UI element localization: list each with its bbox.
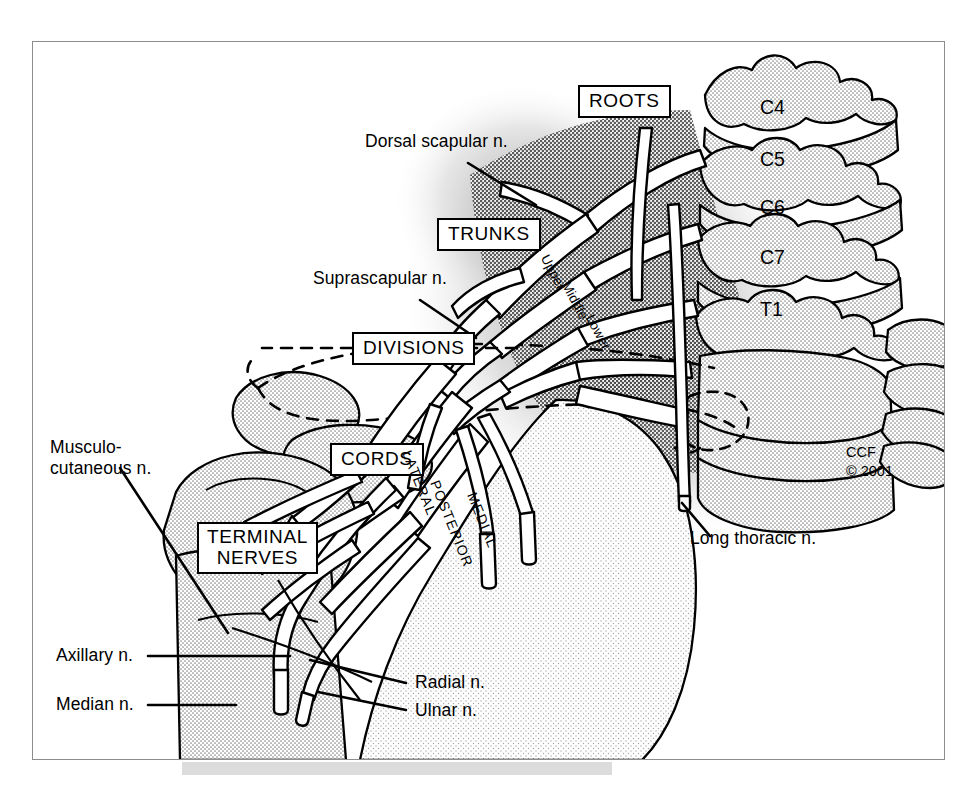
category-box-trunks[interactable]: TRUNKS	[437, 218, 541, 251]
copyright-notice: CCF © 2001	[846, 443, 893, 480]
category-label-trunks: TRUNKS	[448, 223, 530, 244]
category-box-terminal-nerves[interactable]: TERMINAL NERVES	[197, 522, 318, 574]
nerve-label-musculocutaneous-line1: Musculo-	[50, 437, 151, 458]
branch-thoracodorsal-tip	[520, 512, 536, 565]
nerve-label-dorsal-scapular: Dorsal scapular n.	[365, 131, 508, 152]
nerve-label-median: Median n.	[56, 694, 134, 715]
category-label-terminal-line2: NERVES	[207, 548, 308, 569]
category-box-roots[interactable]: ROOTS	[578, 85, 671, 118]
vertebra-label-c6: C6	[760, 196, 785, 219]
nerve-label-suprascapular: Suprascapular n.	[313, 268, 447, 289]
category-label-divisions: DIVISIONS	[363, 337, 464, 358]
category-label-roots: ROOTS	[589, 90, 660, 111]
nerve-label-long-thoracic: Long thoracic n.	[690, 528, 816, 549]
nerve-label-radial: Radial n.	[415, 672, 485, 693]
nerve-median-trunk	[274, 670, 288, 715]
category-box-divisions[interactable]: DIVISIONS	[352, 332, 475, 365]
category-label-terminal-line1: TERMINAL	[207, 527, 308, 548]
vertebra-label-t1: T1	[760, 298, 783, 321]
figure-stage: ROOTS TRUNKS DIVISIONS CORDS TERMINAL NE…	[0, 0, 971, 789]
nerve-label-ulnar: Ulnar n.	[415, 700, 477, 721]
vertebra-label-c5: C5	[760, 148, 785, 171]
nerve-label-axillary: Axillary n.	[56, 645, 133, 666]
vertebra-label-c4: C4	[760, 96, 785, 119]
nerve-label-musculocutaneous: Musculo- cutaneous n.	[50, 437, 151, 478]
vertebra-label-c7: C7	[760, 246, 785, 269]
brachial-plexus-illustration	[0, 0, 971, 789]
nerve-label-musculocutaneous-line2: cutaneous n.	[50, 458, 151, 479]
